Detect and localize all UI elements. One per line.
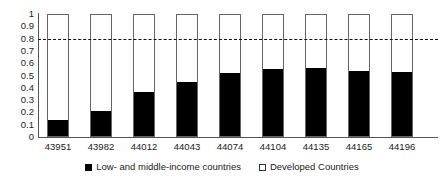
bar-group[interactable] xyxy=(262,14,284,137)
y-tick-label: 0.3 xyxy=(0,95,34,105)
bar-segment-low-middle-income xyxy=(392,72,412,136)
bar-group[interactable] xyxy=(176,14,198,137)
y-tick-label: 0.9 xyxy=(0,22,34,32)
bar-segment-low-middle-income xyxy=(48,120,68,136)
bar-stack xyxy=(176,14,198,137)
bar-stack xyxy=(47,14,69,137)
bar-segment-low-middle-income xyxy=(134,92,154,136)
legend-label: Developed Countries xyxy=(270,161,359,173)
bar-stack xyxy=(348,14,370,137)
x-axis-labels: 43951 43982 44012 44043 44074 44104 4413… xyxy=(38,141,438,157)
bar-group[interactable] xyxy=(133,14,155,137)
y-tick-label: 0.4 xyxy=(0,83,34,93)
bar-segment-low-middle-income xyxy=(220,73,240,136)
y-tick-label: 0.5 xyxy=(0,71,34,81)
bar-series-container xyxy=(38,14,438,137)
bar-stack xyxy=(133,14,155,137)
bar-group[interactable] xyxy=(391,14,413,137)
bar-group[interactable] xyxy=(348,14,370,137)
chart-legend: Low- and middle-income countries Develop… xyxy=(0,161,444,173)
y-tick-label: 0.2 xyxy=(0,108,34,118)
bar-segment-low-middle-income xyxy=(306,68,326,136)
x-tick-label: 44196 xyxy=(372,141,432,153)
bar-group[interactable] xyxy=(47,14,69,137)
y-tick-label: 0.6 xyxy=(0,58,34,68)
y-tick-label: 0.8 xyxy=(0,34,34,44)
y-tick-label: 0.1 xyxy=(0,120,34,130)
filled-square-icon xyxy=(85,164,92,171)
legend-label: Low- and middle-income countries xyxy=(96,161,241,173)
bar-segment-low-middle-income xyxy=(263,69,283,136)
stacked-bar-chart: 1 0.9 0.8 0.7 0.6 0.5 0.4 0.3 0.2 0.1 0 xyxy=(0,0,444,180)
bar-group[interactable] xyxy=(305,14,327,137)
bar-stack xyxy=(219,14,241,137)
hollow-square-icon xyxy=(259,164,266,171)
x-axis-line xyxy=(38,137,438,138)
bar-stack xyxy=(262,14,284,137)
bar-stack xyxy=(391,14,413,137)
y-tick-label: 0.7 xyxy=(0,46,34,56)
bar-group[interactable] xyxy=(219,14,241,137)
plot-area xyxy=(38,14,438,137)
y-tick-label: 1 xyxy=(0,9,34,19)
bar-stack xyxy=(305,14,327,137)
bar-segment-low-middle-income xyxy=(91,111,111,136)
bar-segment-low-middle-income xyxy=(349,71,369,136)
legend-item-low-middle-income[interactable]: Low- and middle-income countries xyxy=(85,161,241,173)
bar-stack xyxy=(90,14,112,137)
threshold-line-icon xyxy=(38,39,438,40)
legend-item-developed-countries[interactable]: Developed Countries xyxy=(259,161,359,173)
y-axis-labels: 1 0.9 0.8 0.7 0.6 0.5 0.4 0.3 0.2 0.1 0 xyxy=(0,0,34,180)
bar-segment-low-middle-income xyxy=(177,82,197,136)
bar-group[interactable] xyxy=(90,14,112,137)
